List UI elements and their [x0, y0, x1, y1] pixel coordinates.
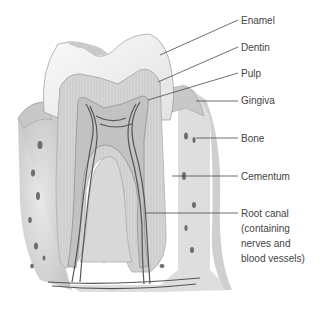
label-cementum: Cementum — [241, 169, 290, 184]
label-enamel: Enamel — [241, 13, 275, 28]
label-gingiva: Gingiva — [241, 93, 275, 108]
label-root-canal-line-4: blood vessels) — [241, 251, 305, 266]
label-pulp: Pulp — [241, 66, 261, 81]
leader-enamel — [160, 20, 238, 55]
label-root-canal-line-3: nerves and — [241, 236, 305, 251]
label-root-canal: Root canal (containing nerves and blood … — [241, 206, 305, 266]
label-dentin: Dentin — [241, 40, 270, 55]
label-bone: Bone — [241, 131, 264, 146]
label-root-canal-line-2: (containing — [241, 221, 305, 236]
label-root-canal-line-1: Root canal — [241, 206, 305, 221]
